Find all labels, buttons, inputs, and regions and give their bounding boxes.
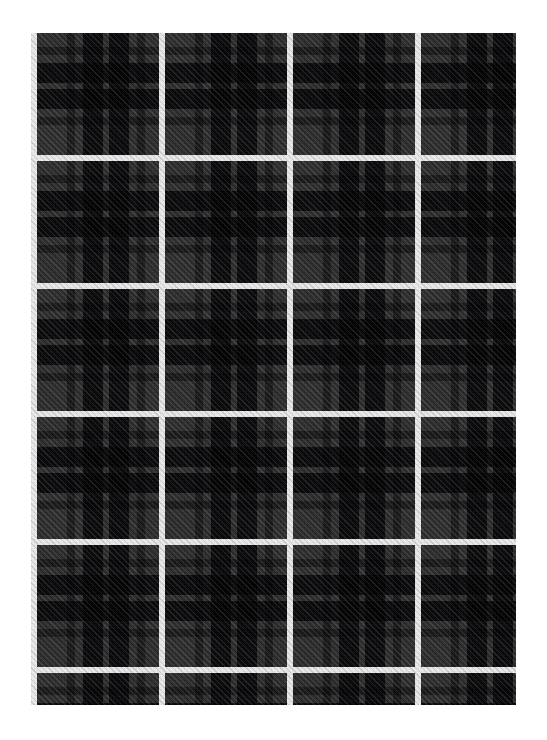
- tartan-cloth: [31, 33, 516, 705]
- weft-overcheck-layer: [31, 33, 516, 705]
- swatch-canvas: Tartan plaid swatch Gray, charcoal, blac…: [0, 0, 547, 740]
